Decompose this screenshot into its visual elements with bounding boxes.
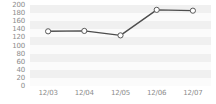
data-point-marker[interactable] xyxy=(154,7,159,12)
data-point-marker[interactable] xyxy=(118,33,123,38)
data-point-marker[interactable] xyxy=(190,8,195,13)
data-series xyxy=(0,0,216,104)
data-point-marker[interactable] xyxy=(82,28,87,33)
line-chart: 020406080100120140160180200 12/0312/0412… xyxy=(0,0,216,104)
data-point-marker[interactable] xyxy=(46,29,51,34)
series-line xyxy=(48,10,193,36)
